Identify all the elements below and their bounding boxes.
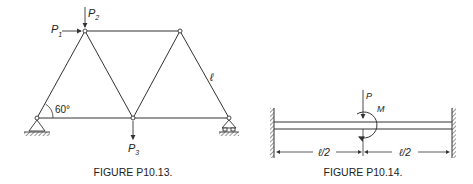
node-top-left [83,29,87,33]
node-top-right [178,29,182,33]
left-span-label: ℓ/2 [317,147,330,158]
angle-arc-icon [46,104,54,118]
inner-diagonal-1 [85,31,133,118]
force-label-p: P [366,91,372,101]
beam [274,122,452,129]
figure-14-caption: FIGURE P10.14. [324,166,403,178]
member-length-label: ℓ [209,71,214,83]
pin-support-icon [24,120,50,136]
node-bottom-middle [131,116,135,120]
moment-arc-icon [357,112,377,138]
beam-figure: P M ℓ/2 ℓ/2 FIGURE P10.14. [270,90,456,178]
figure-13-caption: FIGURE P10.13. [94,166,173,178]
right-fixed-wall-icon [452,108,456,158]
inner-diagonal-2 [133,31,180,118]
angle-label: 60° [55,104,70,115]
right-diagonal [180,31,229,118]
load-label-p2: P2 [88,7,99,21]
moment-label-m: M [377,104,385,114]
left-fixed-wall-icon [270,108,274,158]
figures-canvas: 60° P2 P1 P3 ℓ FIGURE P10.13. [0,0,473,184]
right-span-label: ℓ/2 [398,147,411,158]
load-label-p3: P3 [128,142,139,156]
truss-figure: 60° P2 P1 P3 ℓ FIGURE P10.13. [24,7,239,178]
load-label-p1: P1 [51,23,62,38]
roller-support-icon [219,120,239,136]
